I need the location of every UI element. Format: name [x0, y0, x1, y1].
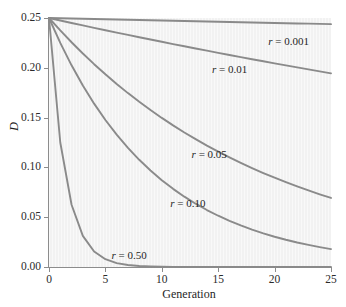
y-tick-mark — [44, 18, 49, 19]
curve-series — [49, 18, 331, 249]
x-tick-mark — [162, 267, 163, 272]
y-tick-label: 0.00 — [21, 261, 41, 273]
curves-layer — [49, 18, 331, 267]
curve-label-value: = 0.10 — [174, 197, 205, 209]
curve-label-value: = 0.01 — [216, 63, 247, 75]
x-axis-title: Generation — [48, 288, 330, 300]
y-tick-label: 0.15 — [21, 112, 41, 124]
x-tick-mark — [275, 267, 276, 272]
curve-label: r = 0.05 — [192, 149, 227, 160]
x-tick-mark — [218, 267, 219, 272]
curve-label: r = 0.50 — [112, 250, 147, 261]
curve-label: r = 0.001 — [268, 36, 309, 47]
plot-area: 0.000.050.100.150.200.25 0510152025 — [48, 18, 331, 268]
curve-label-value: = 0.001 — [273, 35, 309, 47]
curve-label: r = 0.01 — [212, 64, 247, 75]
x-tick-mark — [105, 267, 106, 272]
y-axis-title: D — [8, 122, 21, 131]
y-tick-mark — [44, 167, 49, 168]
x-tick-label: 25 — [325, 274, 337, 286]
y-tick-mark — [44, 68, 49, 69]
x-tick-label: 5 — [103, 274, 109, 286]
curve-label-value: = 0.50 — [116, 249, 147, 261]
y-tick-label: 0.25 — [21, 12, 41, 24]
curve-label-value: = 0.05 — [196, 148, 227, 160]
curve-series — [49, 18, 331, 24]
y-tick-mark — [44, 217, 49, 218]
y-tick-mark — [44, 118, 49, 119]
curve-series — [49, 18, 331, 267]
x-tick-mark — [49, 267, 50, 272]
chart-figure: 0.000.050.100.150.200.25 0510152025 r = … — [0, 0, 346, 307]
x-tick-label: 0 — [46, 274, 52, 286]
x-tick-label: 20 — [269, 274, 281, 286]
x-tick-label: 10 — [156, 274, 168, 286]
y-tick-label: 0.05 — [21, 211, 41, 223]
x-tick-label: 15 — [212, 274, 224, 286]
curve-label: r = 0.10 — [170, 198, 205, 209]
y-tick-label: 0.10 — [21, 162, 41, 174]
x-tick-mark — [331, 267, 332, 272]
y-tick-label: 0.20 — [21, 62, 41, 74]
